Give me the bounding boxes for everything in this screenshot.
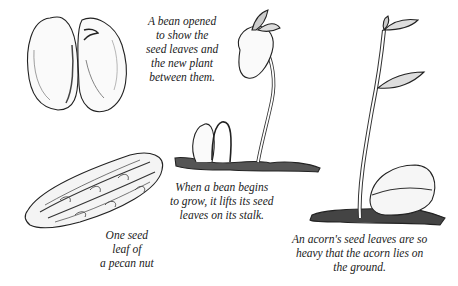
caption-line: heavy that the acorn lies on — [292, 246, 427, 260]
pecan-seed-leaf-illustration — [25, 153, 162, 228]
caption-line: the ground. — [292, 260, 427, 274]
caption-line: to show the — [146, 28, 218, 42]
caption-bean-grows: When a bean begins to grow, it lifts its… — [170, 180, 274, 222]
caption-line: One seed — [100, 228, 154, 242]
caption-line: a pecan nut — [100, 256, 154, 270]
caption-line: leaf of — [100, 242, 154, 256]
acorn-seedling-illustration — [310, 16, 445, 225]
caption-pecan: One seed leaf of a pecan nut — [100, 228, 154, 270]
caption-bean-opened: A bean opened to show the seed leaves an… — [146, 14, 218, 84]
caption-line: leaves on its stalk. — [170, 208, 274, 222]
caption-line: the new plant — [146, 56, 218, 70]
caption-line: When a bean begins — [170, 180, 274, 194]
opened-bean-illustration — [28, 17, 127, 112]
caption-acorn: An acorn's seed leaves are so heavy that… — [292, 232, 427, 274]
caption-line: between them. — [146, 70, 218, 84]
caption-line: to grow, it lifts its seed — [170, 194, 274, 208]
caption-line: seed leaves and — [146, 42, 218, 56]
caption-line: An acorn's seed leaves are so — [292, 232, 427, 246]
caption-line: A bean opened — [146, 14, 218, 28]
